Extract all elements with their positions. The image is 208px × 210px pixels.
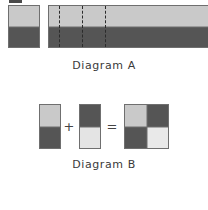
diagram-b-caption: Diagram B — [0, 158, 208, 171]
result-quadrant-bottom-left — [125, 127, 147, 149]
unit-square-top-half — [9, 6, 39, 27]
equals-operator: = — [106, 120, 118, 133]
diagram-a-caption: Diagram A — [0, 59, 208, 72]
result-quadrant-top-right — [147, 105, 169, 127]
diagram-a-group: Diagram A — [0, 0, 208, 78]
operand-2-divider — [80, 126, 100, 127]
unit-square-bottom-half — [9, 27, 39, 48]
dashed-partition-2 — [82, 6, 83, 47]
operand-1-bottom-half — [40, 127, 60, 149]
long-bar-bottom-half — [49, 27, 208, 48]
operand-square-2 — [79, 104, 101, 149]
unit-square-divider — [9, 26, 39, 27]
dashed-partition-3 — [105, 6, 106, 47]
long-bar-top-half — [49, 6, 208, 27]
operand-1-top-half — [40, 105, 60, 127]
plus-operator: + — [63, 120, 75, 133]
result-vertical-divider — [146, 105, 147, 148]
operand-2-top-half — [80, 105, 100, 127]
result-quadrant-bottom-right — [147, 127, 169, 149]
unit-square — [8, 5, 40, 48]
operand-2-bottom-half — [80, 127, 100, 149]
dashed-partition-1 — [59, 6, 60, 47]
operand-square-1 — [39, 104, 61, 149]
diagram-b-group: + = Diagram B — [0, 100, 208, 180]
long-bar-divider — [49, 26, 208, 27]
long-bar — [48, 5, 208, 48]
result-quadrant-top-left — [125, 105, 147, 127]
figure-canvas: Diagram A + = Diagram B — [0, 0, 208, 210]
operand-1-divider — [40, 126, 60, 127]
result-square — [124, 104, 169, 149]
